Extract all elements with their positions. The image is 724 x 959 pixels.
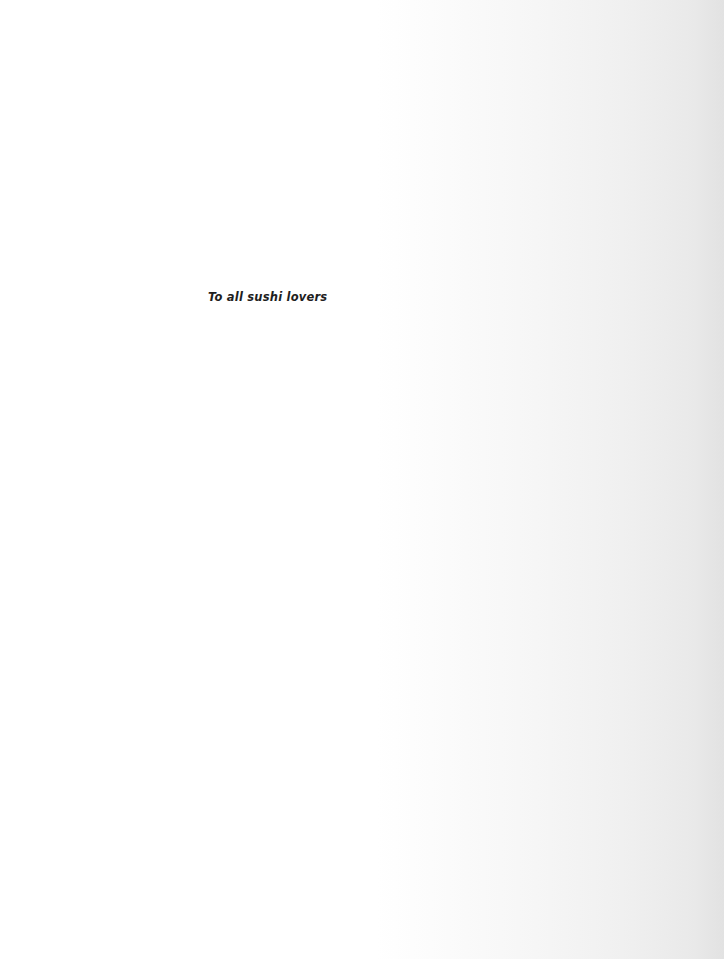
book-page: To all sushi lovers [0,0,724,959]
dedication-text: To all sushi lovers [208,290,327,304]
